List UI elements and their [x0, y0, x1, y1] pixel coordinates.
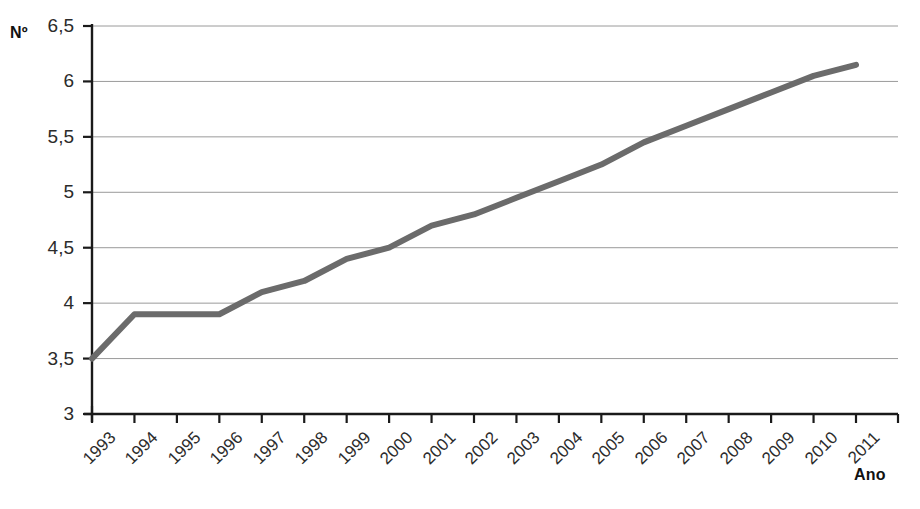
y-axis-tick-label: 6 — [24, 70, 74, 92]
data-series-line — [92, 65, 856, 359]
y-axis-tick-label: 5 — [24, 181, 74, 203]
y-axis-tick-label: 5,5 — [24, 126, 74, 148]
y-axis-tick-label: 4,5 — [24, 237, 74, 259]
y-axis-tick-label: 4 — [24, 292, 74, 314]
line-chart: Nº Ano 33,544,555,566,5 1993199419951996… — [0, 0, 920, 509]
y-axis-tick-label: 6,5 — [24, 15, 74, 37]
gridlines — [92, 26, 898, 359]
y-axis-tick-label: 3 — [24, 403, 74, 425]
axes — [84, 24, 898, 422]
y-axis-tick-label: 3,5 — [24, 348, 74, 370]
